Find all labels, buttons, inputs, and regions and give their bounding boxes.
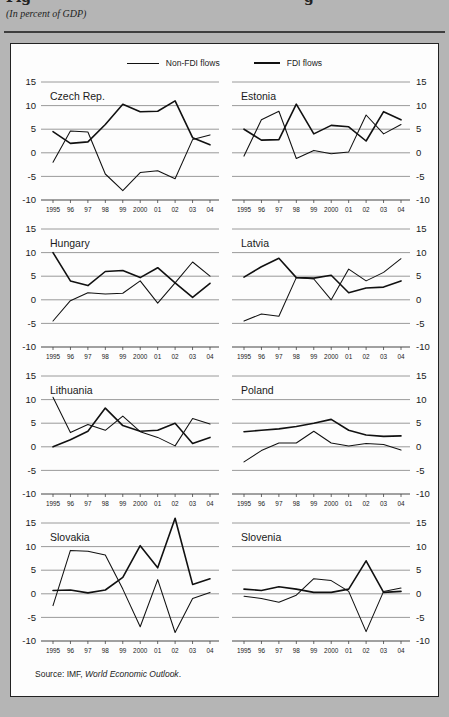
y-tick-label: -10 — [22, 341, 36, 352]
y-tick-label: 15 — [416, 370, 427, 381]
y-tick-label: 15 — [416, 76, 427, 87]
x-tick-label: 01 — [345, 647, 353, 654]
x-tick-label: 98 — [102, 500, 110, 507]
x-tick-label: 96 — [258, 647, 266, 654]
source-publication: World Economic Outlook — [85, 669, 179, 679]
y-tick-label: -10 — [416, 194, 430, 205]
chart-panel-lithuania: 151050-5-10199596979899200001020304Lithu… — [11, 366, 225, 512]
x-tick-label: 01 — [154, 500, 162, 507]
latvia-nonfdi-line — [244, 259, 401, 321]
x-tick-label: 03 — [189, 647, 197, 654]
panel-title: Hungary — [50, 237, 90, 249]
x-tick-label: 96 — [258, 206, 266, 213]
x-tick-label: 03 — [380, 500, 388, 507]
page-header: Fig g (In percent of GDP) — [0, 0, 449, 33]
x-tick-label: 02 — [172, 353, 180, 360]
y-tick-label: 0 — [416, 441, 421, 452]
y-tick-label: -10 — [22, 194, 36, 205]
y-tick-label: 10 — [416, 100, 427, 111]
clipped-figure-title: Fig g — [4, 0, 445, 7]
y-tick-label: 5 — [416, 417, 421, 428]
y-tick-label: -5 — [416, 465, 424, 476]
chart-panel-czech-rep: 151050-5-10199596979899200001020304Czech… — [11, 72, 225, 218]
chart-panel-poland: 151050-5-10199596979899200001020304Polan… — [225, 366, 439, 512]
x-tick-label: 2000 — [324, 206, 339, 213]
y-tick-label: 10 — [416, 247, 427, 258]
source-suffix: . — [179, 669, 181, 679]
x-tick-label: 03 — [189, 500, 197, 507]
x-tick-label: 03 — [189, 206, 197, 213]
x-tick-label: 01 — [345, 206, 353, 213]
estonia-chart: 151050-5-10199596979899200001020304Eston… — [225, 72, 439, 218]
y-tick-label: 0 — [31, 147, 36, 158]
x-tick-label: 98 — [102, 647, 110, 654]
x-tick-label: 96 — [258, 500, 266, 507]
x-tick-label: 98 — [293, 500, 301, 507]
y-tick-label: 10 — [25, 541, 36, 552]
header-rule — [4, 31, 445, 33]
figure-subtitle: (In percent of GDP) — [6, 8, 445, 19]
x-tick-label: 02 — [172, 647, 180, 654]
x-tick-label: 99 — [119, 353, 127, 360]
x-tick-label: 04 — [397, 647, 405, 654]
slovenia-fdi-line — [244, 561, 401, 593]
y-tick-label: 15 — [416, 517, 427, 528]
y-tick-label: 5 — [31, 270, 36, 281]
x-tick-label: 04 — [397, 206, 405, 213]
x-tick-label: 2000 — [324, 500, 339, 507]
x-tick-label: 03 — [189, 353, 197, 360]
x-tick-label: 96 — [67, 206, 75, 213]
y-tick-label: 0 — [31, 441, 36, 452]
y-tick-label: 10 — [416, 394, 427, 405]
chart-panel-estonia: 151050-5-10199596979899200001020304Eston… — [225, 72, 439, 218]
x-tick-label: 1995 — [237, 500, 252, 507]
slovenia-chart: 151050-5-10199596979899200001020304Slove… — [225, 513, 439, 659]
panel-title: Slovenia — [241, 531, 281, 543]
source-prefix: Source: IMF, — [35, 669, 85, 679]
x-tick-label: 99 — [310, 353, 318, 360]
x-tick-label: 04 — [206, 500, 214, 507]
y-tick-label: -10 — [22, 635, 36, 646]
poland-chart: 151050-5-10199596979899200001020304Polan… — [225, 366, 439, 512]
panel-title: Lithuania — [50, 384, 93, 396]
x-tick-label: 01 — [154, 353, 162, 360]
x-tick-label: 96 — [67, 500, 75, 507]
y-tick-label: 10 — [416, 541, 427, 552]
x-tick-label: 04 — [206, 206, 214, 213]
x-tick-label: 04 — [397, 353, 405, 360]
x-tick-label: 02 — [363, 500, 371, 507]
x-tick-label: 1995 — [46, 647, 61, 654]
x-tick-label: 97 — [275, 647, 283, 654]
x-tick-label: 02 — [363, 647, 371, 654]
x-tick-label: 99 — [119, 206, 127, 213]
legend-label: FDI flows — [287, 58, 322, 68]
x-tick-label: 99 — [119, 500, 127, 507]
y-tick-label: 15 — [25, 370, 36, 381]
x-tick-label: 96 — [67, 647, 75, 654]
x-tick-label: 99 — [119, 647, 127, 654]
title-fragment: Fig — [6, 0, 31, 5]
lithuania-nonfdi-line — [53, 397, 210, 446]
x-tick-label: 03 — [380, 353, 388, 360]
x-tick-label: 99 — [310, 647, 318, 654]
x-tick-label: 2000 — [324, 353, 339, 360]
czech-rep-chart: 151050-5-10199596979899200001020304Czech… — [11, 72, 225, 218]
x-tick-label: 2000 — [133, 500, 148, 507]
x-tick-label: 97 — [84, 206, 92, 213]
x-tick-label: 99 — [310, 500, 318, 507]
chart-panel-slovenia: 151050-5-10199596979899200001020304Slove… — [225, 513, 439, 659]
y-tick-label: -5 — [28, 171, 36, 182]
chart-legend: Non-FDI flows FDI flows — [11, 56, 438, 70]
x-tick-label: 02 — [363, 206, 371, 213]
x-tick-label: 1995 — [46, 353, 61, 360]
y-tick-label: 10 — [25, 394, 36, 405]
x-tick-label: 98 — [293, 647, 301, 654]
x-tick-label: 03 — [380, 647, 388, 654]
x-tick-label: 04 — [206, 647, 214, 654]
y-tick-label: 10 — [25, 100, 36, 111]
figure-box: Non-FDI flows FDI flows 151050-5-1019959… — [10, 43, 439, 697]
y-tick-label: -5 — [28, 465, 36, 476]
y-tick-label: 15 — [25, 76, 36, 87]
title-fragment: g — [304, 0, 314, 5]
slovenia-nonfdi-line — [244, 579, 401, 632]
